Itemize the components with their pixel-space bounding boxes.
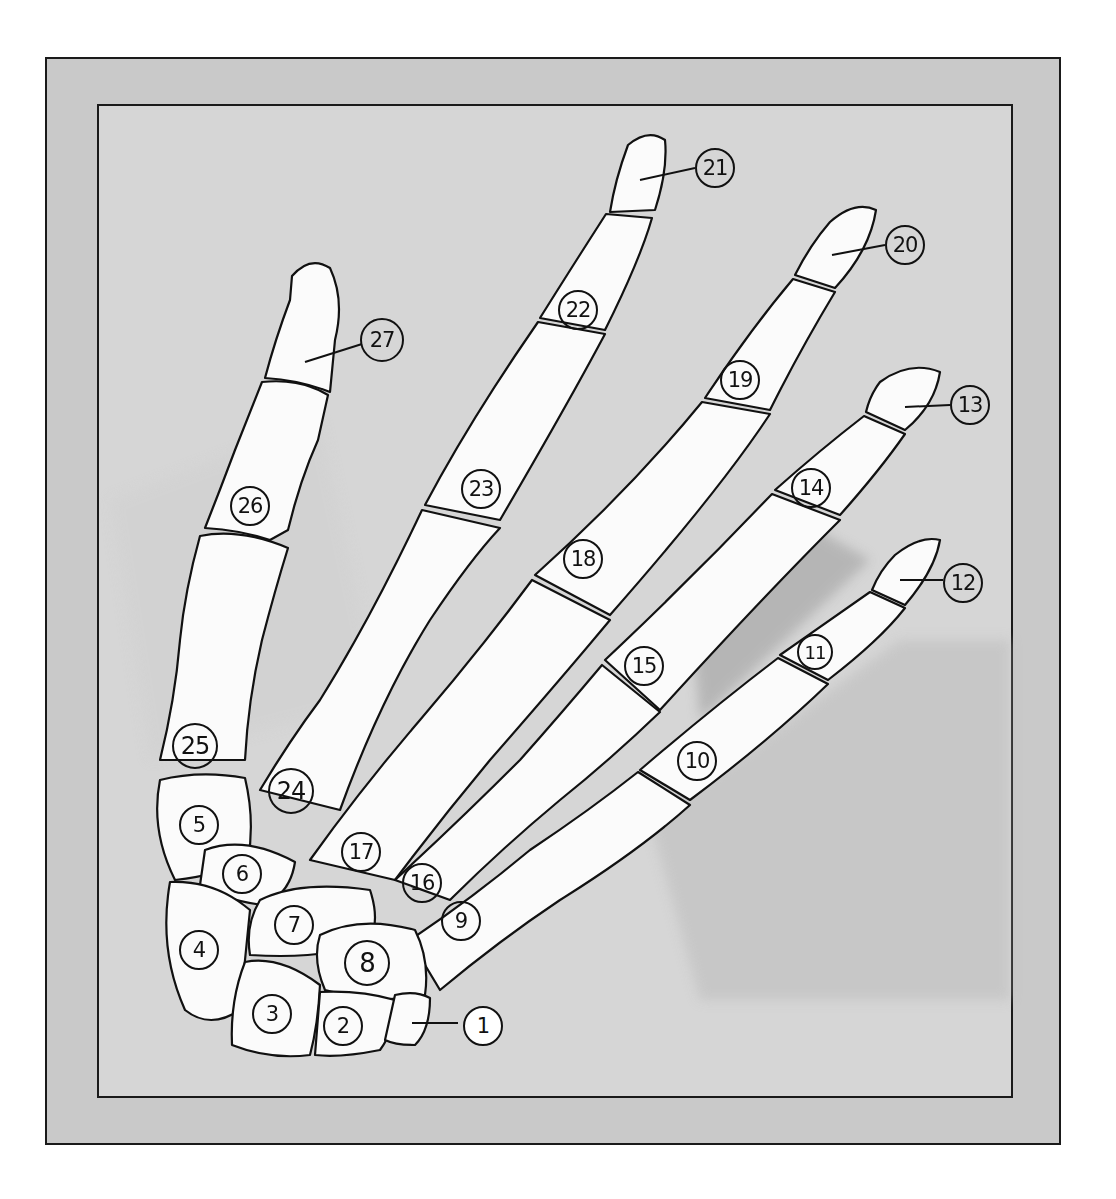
label-6: 6 — [222, 854, 262, 894]
bone-distal-phalanx-2 — [610, 135, 666, 212]
label-9: 9 — [441, 901, 481, 941]
label-4: 4 — [179, 930, 219, 970]
label-5: 5 — [179, 805, 219, 845]
bone-distal-phalanx-3 — [795, 207, 876, 288]
bone-distal-phalanx-5 — [872, 539, 940, 605]
label-18: 18 — [563, 539, 603, 579]
label-21: 21 — [695, 148, 735, 188]
label-12: 12 — [943, 563, 983, 603]
label-14: 14 — [791, 468, 831, 508]
label-19: 19 — [720, 360, 760, 400]
label-22: 22 — [558, 290, 598, 330]
bone-distal-phalanx-thumb — [265, 263, 339, 392]
hand-skeleton-illustration — [0, 0, 1116, 1199]
label-16: 16 — [402, 863, 442, 903]
bone-proximal-phalanx-2 — [425, 322, 605, 520]
label-10: 10 — [677, 741, 717, 781]
label-17: 17 — [341, 832, 381, 872]
label-2: 2 — [323, 1006, 363, 1046]
label-11: 11 — [797, 634, 833, 670]
label-25: 25 — [172, 723, 218, 769]
label-27: 27 — [360, 318, 404, 362]
label-15: 15 — [624, 646, 664, 686]
label-13: 13 — [950, 385, 990, 425]
label-24: 24 — [268, 768, 314, 814]
label-3: 3 — [252, 994, 292, 1034]
label-8: 8 — [344, 940, 390, 986]
label-1: 1 — [463, 1006, 503, 1046]
label-26: 26 — [230, 486, 270, 526]
label-23: 23 — [461, 469, 501, 509]
label-20: 20 — [885, 225, 925, 265]
label-7: 7 — [274, 905, 314, 945]
